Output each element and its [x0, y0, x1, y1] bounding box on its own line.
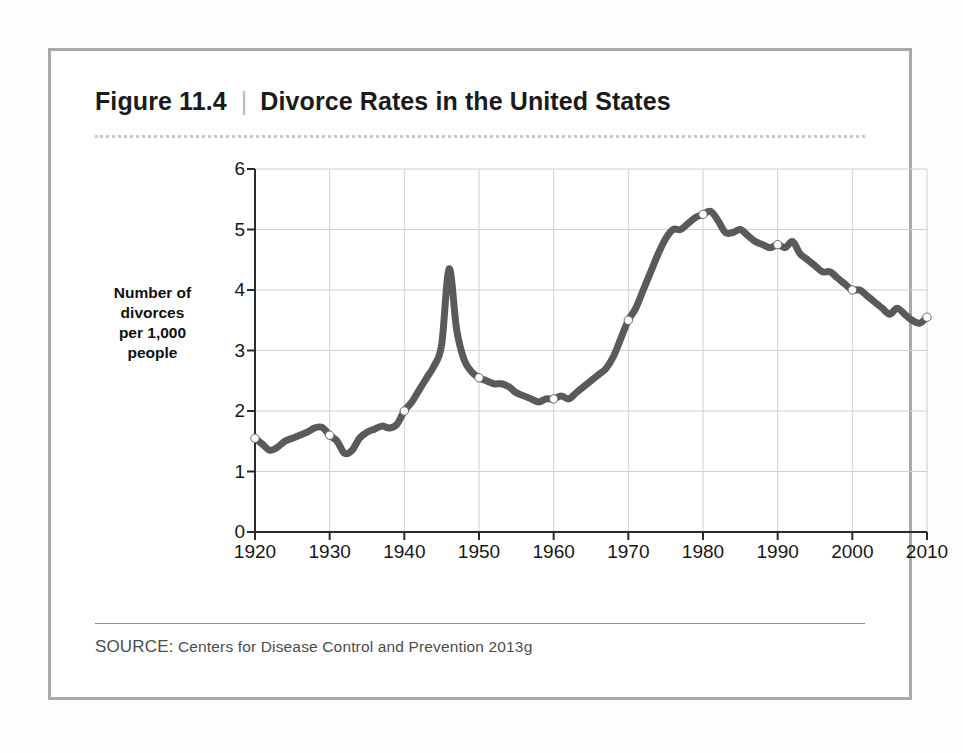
source-citation: Centers for Disease Control and Preventi… [178, 638, 532, 655]
y-tick-label: 1 [234, 461, 245, 483]
y-tick-label: 2 [234, 400, 245, 422]
page-title: Divorce Rates in the United States [260, 87, 670, 116]
x-tick-label: 1990 [757, 541, 799, 563]
figure-number: Figure 11.4 [95, 87, 227, 116]
x-tick-label: 1920 [234, 541, 276, 563]
y-tick-label: 4 [234, 279, 245, 301]
x-tick-label: 1980 [682, 541, 724, 563]
title-dotted-rule [95, 135, 865, 141]
source-divider [95, 623, 865, 624]
chart-plot-area: 0123456 19201930194019501960197019801990… [255, 169, 927, 532]
x-tick-label: 2010 [906, 541, 948, 563]
y-axis-label: Number of divorces per 1,000 people [95, 283, 210, 363]
x-tick-label: 1960 [533, 541, 575, 563]
figure-inner: Figure 11.4 | Divorce Rates in the Unite… [51, 51, 909, 697]
title-divider: | [241, 87, 248, 116]
x-tick-label: 1940 [383, 541, 425, 563]
figure-title-row: Figure 11.4 | Divorce Rates in the Unite… [95, 87, 865, 121]
y-tick-label: 0 [234, 521, 245, 543]
y-axis-label-line-2: divorces [95, 303, 210, 323]
x-tick-label: 1970 [607, 541, 649, 563]
y-axis-label-line-1: Number of [95, 283, 210, 303]
y-tick-label: 5 [234, 219, 245, 241]
y-tick-label: 6 [234, 158, 245, 180]
source-note: SOURCE: Centers for Disease Control and … [95, 637, 532, 657]
line-chart-svg [255, 169, 927, 532]
x-tick-label: 2000 [831, 541, 873, 563]
x-tick-label: 1950 [458, 541, 500, 563]
y-axis-label-line-3: per 1,000 [95, 323, 210, 343]
x-tick-label: 1930 [309, 541, 351, 563]
chart-tick-marks [247, 169, 927, 540]
divorce-rate-line [255, 211, 927, 454]
y-axis-label-line-4: people [95, 343, 210, 363]
plot-wrapper: Number of divorces per 1,000 people 0123… [95, 161, 865, 591]
figure-frame: Figure 11.4 | Divorce Rates in the Unite… [48, 48, 912, 700]
data-point-markers [251, 210, 931, 442]
chart-gridlines [255, 169, 927, 532]
y-tick-label: 3 [234, 340, 245, 362]
source-label: SOURCE: [95, 637, 174, 656]
